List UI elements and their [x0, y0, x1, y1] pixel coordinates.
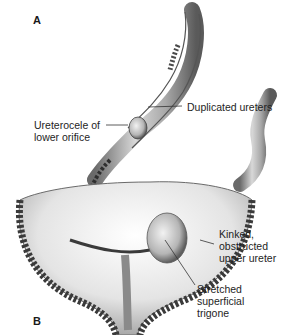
label-duplicated-ureters: Duplicated ureters [187, 101, 272, 113]
panel-letter-a: A [33, 14, 41, 26]
label-stretched-trigone: Stretched superficial trigone [197, 283, 244, 319]
panel-letter-b: B [33, 315, 41, 327]
label-kinked-ureter: Kinked, obstructed upper ureter [219, 228, 276, 264]
anatomical-illustration [0, 0, 292, 335]
label-ureterocele: Ureterocele of lower orifice [34, 119, 100, 143]
panel-a-ureters [92, 10, 201, 186]
